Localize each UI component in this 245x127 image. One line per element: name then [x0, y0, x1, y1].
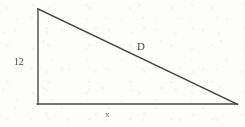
- hypotenuse-label: D: [137, 41, 145, 52]
- triangle-figure: 12 D x: [0, 0, 245, 127]
- vertical-leg-label: 12: [14, 57, 23, 67]
- right-triangle-svg: [0, 0, 245, 127]
- base-label: x: [105, 110, 110, 119]
- hypotenuse-line: [38, 9, 238, 104]
